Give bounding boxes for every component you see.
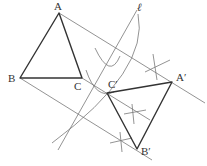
- triangle-abc: [20, 13, 82, 78]
- triangle-a-prime-b-prime-c-prime: [107, 82, 172, 149]
- cross-mark-a: [145, 54, 170, 80]
- label-c-prime: C′: [108, 78, 118, 90]
- label-a: A: [54, 0, 62, 12]
- label-line-l: ℓ: [137, 1, 142, 13]
- label-c: C: [74, 80, 81, 92]
- label-a-prime: A′: [176, 71, 186, 83]
- compass-arc-3: [95, 48, 120, 66]
- cross-mark-b: [110, 132, 132, 152]
- cross-mark-c: [124, 104, 146, 124]
- reflection-diagram: A B C A′ B′ C′ ℓ: [0, 0, 207, 166]
- construction-line-b: [20, 78, 152, 160]
- label-b-prime: B′: [141, 145, 151, 157]
- label-b: B: [8, 72, 15, 84]
